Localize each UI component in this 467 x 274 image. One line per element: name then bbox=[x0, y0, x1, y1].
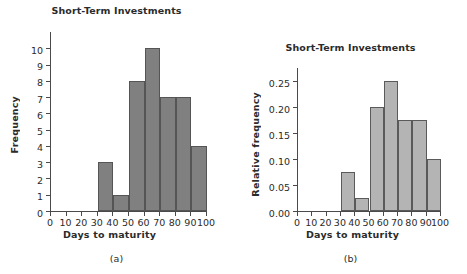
panel-label-a: (a) bbox=[0, 253, 233, 264]
y-tick-a bbox=[46, 195, 51, 196]
y-tick-label-b: 0.20 bbox=[269, 103, 290, 114]
x-tick-a bbox=[81, 212, 82, 216]
y-tick-label-a: 2 bbox=[37, 174, 43, 185]
y-tick-label-a: 1 bbox=[37, 191, 43, 202]
x-tick-b bbox=[326, 212, 327, 216]
y-tick-label-a: 6 bbox=[37, 109, 43, 120]
y-tick-a bbox=[46, 97, 51, 98]
x-tick-a bbox=[175, 212, 176, 216]
y-tick-a bbox=[46, 65, 51, 66]
x-tick-b bbox=[440, 212, 441, 216]
histogram-panel-a: Short-Term Investments Frequency 0123456… bbox=[0, 0, 233, 274]
y-tick-label-a: 9 bbox=[37, 61, 43, 72]
x-tick-b bbox=[340, 212, 341, 216]
y-tick-b bbox=[293, 185, 298, 186]
histogram-bar bbox=[427, 159, 441, 211]
x-tick-label-b: 20 bbox=[320, 217, 332, 228]
y-tick-b bbox=[293, 81, 298, 82]
y-tick-label-a: 5 bbox=[37, 126, 43, 137]
histogram-bar bbox=[384, 81, 398, 211]
x-tick-label-a: 10 bbox=[60, 217, 72, 228]
x-tick-a bbox=[190, 212, 191, 216]
x-tick-label-b: 60 bbox=[377, 217, 389, 228]
histogram-bar bbox=[370, 107, 384, 211]
y-tick-label-a: 0 bbox=[37, 207, 43, 218]
histogram-bar bbox=[191, 146, 207, 211]
x-tick-b bbox=[411, 212, 412, 216]
y-tick-a bbox=[46, 130, 51, 131]
plot-area-b: 0.000.050.100.150.200.250102030405060708… bbox=[297, 68, 441, 212]
x-tick-label-a: 40 bbox=[106, 217, 118, 228]
x-tick-label-b: 70 bbox=[391, 217, 403, 228]
x-tick-a bbox=[206, 212, 207, 216]
x-tick-a bbox=[144, 212, 145, 216]
y-tick-a bbox=[46, 81, 51, 82]
y-tick-b bbox=[293, 159, 298, 160]
x-tick-b bbox=[354, 212, 355, 216]
y-tick-label-b: 0.15 bbox=[269, 129, 290, 140]
x-tick-a bbox=[112, 212, 113, 216]
x-tick-b bbox=[426, 212, 427, 216]
histogram-bar bbox=[412, 120, 426, 211]
x-tick-label-a: 100 bbox=[197, 217, 215, 228]
histogram-bar bbox=[341, 172, 355, 211]
y-tick-label-b: 0.05 bbox=[269, 181, 290, 192]
y-tick-label-a: 3 bbox=[37, 158, 43, 169]
y-axis-label-b: Relative frequency bbox=[250, 92, 261, 197]
histogram-bar bbox=[145, 48, 161, 211]
x-tick-label-a: 0 bbox=[47, 217, 53, 228]
y-tick-a bbox=[46, 48, 51, 49]
y-axis-label-a: Frequency bbox=[9, 96, 20, 153]
x-tick-b bbox=[369, 212, 370, 216]
x-tick-label-b: 40 bbox=[348, 217, 360, 228]
x-tick-label-b: 30 bbox=[334, 217, 346, 228]
y-tick-label-a: 7 bbox=[37, 93, 43, 104]
x-tick-b bbox=[311, 212, 312, 216]
x-tick-a bbox=[128, 212, 129, 216]
chart-title-b: Short-Term Investments bbox=[234, 42, 467, 53]
x-tick-label-b: 0 bbox=[294, 217, 300, 228]
x-axis-label-b: Days to maturity bbox=[306, 229, 399, 240]
x-tick-label-b: 10 bbox=[305, 217, 317, 228]
y-tick-a bbox=[46, 162, 51, 163]
x-tick-label-a: 80 bbox=[169, 217, 181, 228]
x-tick-a bbox=[50, 212, 51, 216]
histogram-bar bbox=[98, 162, 114, 211]
y-tick-a bbox=[46, 113, 51, 114]
x-tick-label-a: 70 bbox=[153, 217, 165, 228]
panel-label-b: (b) bbox=[234, 253, 467, 264]
x-tick-label-a: 90 bbox=[184, 217, 196, 228]
plot-area-a: 0123456789100102030405060708090100 bbox=[50, 32, 207, 212]
x-tick-label-a: 30 bbox=[91, 217, 103, 228]
histogram-bar bbox=[398, 120, 412, 211]
y-tick-label-a: 10 bbox=[31, 44, 43, 55]
y-tick-b bbox=[293, 107, 298, 108]
x-tick-b bbox=[297, 212, 298, 216]
bars-group-b bbox=[298, 68, 441, 211]
x-tick-label-b: 80 bbox=[405, 217, 417, 228]
chart-title-a: Short-Term Investments bbox=[0, 5, 233, 16]
y-tick-label-a: 8 bbox=[37, 77, 43, 88]
y-tick-label-a: 4 bbox=[37, 142, 43, 153]
x-tick-a bbox=[159, 212, 160, 216]
x-tick-a bbox=[66, 212, 67, 216]
x-tick-label-a: 60 bbox=[138, 217, 150, 228]
x-tick-a bbox=[97, 212, 98, 216]
histogram-panel-b: Short-Term Investments Relative frequenc… bbox=[234, 0, 467, 274]
histogram-bar bbox=[160, 97, 176, 211]
x-tick-label-a: 50 bbox=[122, 217, 134, 228]
y-tick-label-b: 0.10 bbox=[269, 155, 290, 166]
histogram-bar bbox=[355, 198, 369, 211]
y-tick-b bbox=[293, 133, 298, 134]
y-tick-a bbox=[46, 146, 51, 147]
x-axis-label-a: Days to maturity bbox=[63, 229, 156, 240]
x-tick-b bbox=[397, 212, 398, 216]
histogram-bar bbox=[176, 97, 192, 211]
histogram-bar bbox=[129, 81, 145, 211]
x-tick-label-b: 90 bbox=[420, 217, 432, 228]
x-tick-label-b: 50 bbox=[362, 217, 374, 228]
y-tick-label-b: 0.25 bbox=[269, 77, 290, 88]
y-tick-label-b: 0.00 bbox=[269, 207, 290, 218]
x-tick-label-b: 100 bbox=[431, 217, 449, 228]
x-tick-label-a: 20 bbox=[75, 217, 87, 228]
